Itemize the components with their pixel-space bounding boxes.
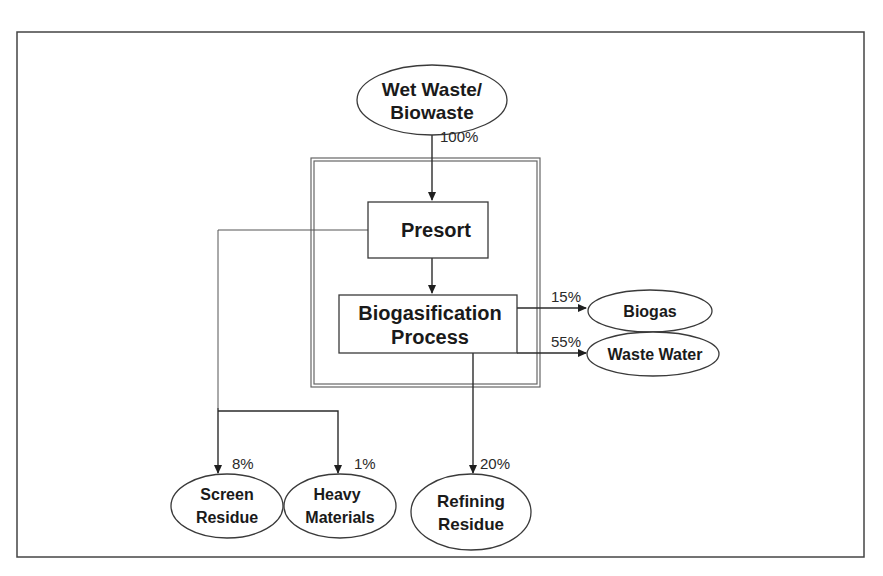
node-screen-residue: Screen Residue [171, 474, 283, 538]
node-waste-water: Waste Water [587, 332, 719, 376]
node-screen-residue-label-1: Screen [200, 486, 253, 503]
node-refining-residue: Refining Residue [411, 474, 531, 550]
node-presort-label: Presort [401, 219, 471, 241]
edge-label-20: 20% [480, 455, 510, 472]
edge-label-100: 100% [440, 128, 478, 145]
node-wet-waste-label-1: Wet Waste/ [382, 79, 483, 100]
node-heavy-materials: Heavy Materials [284, 474, 396, 538]
node-waste-water-label: Waste Water [608, 346, 703, 363]
node-biogasification: Biogasification Process [339, 295, 517, 353]
node-heavy-materials-label-2: Materials [305, 509, 374, 526]
node-biogasification-label-1: Biogasification [358, 302, 501, 324]
node-presort: Presort [368, 202, 488, 258]
node-screen-residue-label-2: Residue [196, 509, 258, 526]
node-wet-waste: Wet Waste/ Biowaste [357, 65, 507, 135]
node-refining-residue-label-2: Residue [438, 515, 504, 534]
edge-label-15: 15% [551, 288, 581, 305]
edge-label-1: 1% [354, 455, 376, 472]
node-refining-residue-label-1: Refining [437, 492, 505, 511]
node-biogasification-label-2: Process [391, 326, 469, 348]
node-biogas: Biogas [588, 290, 712, 332]
edge-label-55: 55% [551, 333, 581, 350]
edge-label-8: 8% [232, 455, 254, 472]
flow-diagram: Wet Waste/ Biowaste Presort Biogasificat… [0, 0, 883, 576]
node-wet-waste-label-2: Biowaste [390, 102, 473, 123]
node-heavy-materials-label-1: Heavy [313, 486, 360, 503]
node-biogas-label: Biogas [623, 303, 676, 320]
